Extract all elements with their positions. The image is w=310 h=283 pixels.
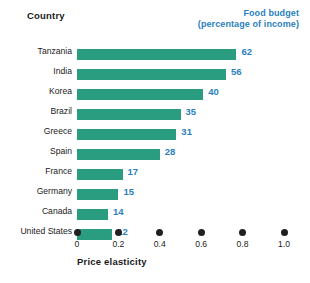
- bar: [77, 209, 108, 220]
- bar-row: Germany15: [0, 184, 310, 204]
- x-axis-tick-label: 0.8: [229, 239, 257, 249]
- bar-row: Brazil35: [0, 104, 310, 124]
- bar-row: France17: [0, 164, 310, 184]
- tick-dot-icon: [239, 229, 246, 236]
- bar-value-label: 31: [181, 126, 192, 137]
- bar-row: India56: [0, 64, 310, 84]
- x-axis-tick-label: 0.6: [187, 239, 215, 249]
- bar-value-label: 28: [165, 146, 176, 157]
- bar-row: Canada14: [0, 204, 310, 224]
- bar-row: Spain28: [0, 144, 310, 164]
- bar: [77, 129, 176, 140]
- x-axis-tick-label: 0: [63, 239, 91, 249]
- bar: [77, 49, 236, 60]
- x-axis-tick-label: 1.0: [270, 239, 298, 249]
- country-label: Tanzania: [0, 46, 72, 56]
- bar-value-label: 40: [208, 86, 219, 97]
- tick-dot-icon: [156, 229, 163, 236]
- tick-dot-icon: [198, 229, 205, 236]
- bar-row: Greece31: [0, 124, 310, 144]
- bar-value-label: 35: [186, 106, 197, 117]
- bar-value-label: 62: [241, 46, 252, 57]
- column-header-food-budget: Food budget (percentage of income): [198, 8, 299, 30]
- tick-dot-icon: [115, 229, 122, 236]
- country-label: Spain: [0, 146, 72, 156]
- bar: [77, 149, 160, 160]
- column-header-food-budget-line1: Food budget: [198, 8, 299, 19]
- plot-area: Tanzania62India56Korea40Brazil35Greece31…: [0, 44, 310, 229]
- bar-chart: Country Food budget (percentage of incom…: [0, 0, 310, 283]
- tick-dot-icon: [74, 229, 81, 236]
- tick-dot-icon: [281, 229, 288, 236]
- column-header-country: Country: [27, 10, 65, 21]
- bar-row: Korea40: [0, 84, 310, 104]
- bar: [77, 189, 118, 200]
- bar-row: Tanzania62: [0, 44, 310, 64]
- bar-value-label: 56: [231, 66, 242, 77]
- bar: [77, 69, 226, 80]
- x-axis-tick-label: 0.2: [104, 239, 132, 249]
- column-header-food-budget-line2: (percentage of income): [198, 19, 299, 30]
- x-axis-tick-label: 0.4: [146, 239, 174, 249]
- country-label: India: [0, 66, 72, 76]
- bar-value-label: 14: [113, 206, 124, 217]
- x-axis-title: Price elasticity: [77, 256, 147, 267]
- country-label: Germany: [0, 186, 72, 196]
- bar-value-label: 15: [123, 186, 134, 197]
- country-label: Korea: [0, 86, 72, 96]
- country-label: Greece: [0, 126, 72, 136]
- country-label: France: [0, 166, 72, 176]
- x-axis: Price elasticity 00.20.40.60.81.0: [0, 229, 310, 283]
- country-label: Brazil: [0, 106, 72, 116]
- bar: [77, 89, 203, 100]
- country-label: Canada: [0, 206, 72, 216]
- bar: [77, 109, 181, 120]
- bar: [77, 169, 123, 180]
- bar-value-label: 17: [128, 166, 139, 177]
